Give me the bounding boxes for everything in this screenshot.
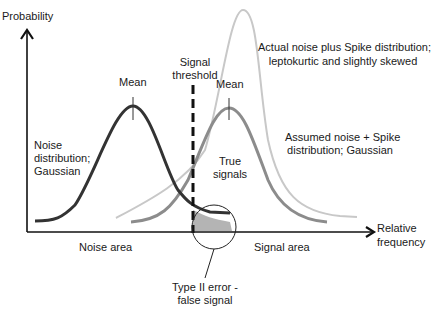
noise-dist-label-3: Gaussian xyxy=(34,165,80,178)
threshold-label-2: threshold xyxy=(170,69,220,82)
noise-area-label: Noise area xyxy=(79,241,132,254)
threshold-label-1: Signal xyxy=(170,56,220,69)
x-axis-label-1: Relative xyxy=(377,222,417,235)
true-signals-label-2: signals xyxy=(210,168,250,181)
noise-dist-label-2: distribution; xyxy=(34,152,90,165)
noise-mean-label: Mean xyxy=(119,76,147,89)
signal-area-label: Signal area xyxy=(254,241,310,254)
x-axis-label-2: frequency xyxy=(377,236,425,249)
true-signals-label-1: True xyxy=(210,155,250,168)
actual-dist-label-2: leptokurtic and slightly skewed xyxy=(258,55,428,68)
y-axis-label: Probability xyxy=(2,10,53,23)
actual-dist-label-1: Actual noise plus Spike distribution; xyxy=(258,41,428,54)
error-label-1: Type II error - xyxy=(165,281,245,294)
assumed-dist-label-1: Assumed noise + Spike xyxy=(285,131,395,144)
error-pointer-line xyxy=(205,249,214,278)
error-label-2: false signal xyxy=(165,294,245,307)
signal-mean-label: Mean xyxy=(216,78,244,91)
assumed-dist-label-2: distribution; Gaussian xyxy=(285,144,395,157)
noise-dist-label-1: Noise xyxy=(34,139,62,152)
